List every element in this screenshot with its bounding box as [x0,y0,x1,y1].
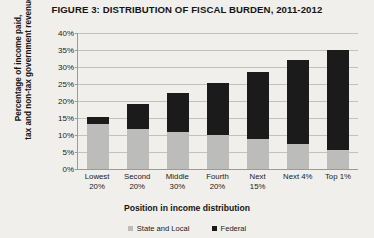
x-axis-tick-label-line: Fourth [197,172,237,182]
x-axis-tick-label: Fourth20% [197,172,237,191]
x-axis-tick-label-line: 30% [157,182,197,192]
x-axis-tick-label-line: 20% [117,182,157,192]
plot-area: 0%5%10%15%20%25%30%35%40% [77,33,358,170]
bar-group [278,33,318,169]
stacked-bar[interactable] [327,50,349,169]
bar-group [198,33,238,169]
bar-segment-state-and-local[interactable] [87,124,109,169]
bar-group [78,33,118,169]
x-axis-tick-label-line: 15% [238,182,278,192]
legend-swatch-icon [212,226,217,231]
legend-item[interactable]: State and Local [128,224,190,233]
x-axis-tick-label-line: Next 4% [278,172,318,182]
legend-swatch-icon [128,226,133,231]
x-axis-tick-label: Lowest20% [77,172,117,191]
bar-series-layer [78,33,358,169]
stacked-bar[interactable] [87,117,109,169]
stacked-bar[interactable] [247,72,269,169]
bar-segment-state-and-local[interactable] [247,139,269,169]
x-axis-tick-label: Second20% [117,172,157,191]
bar-segment-state-and-local[interactable] [287,144,309,169]
y-axis-tick-mark [75,169,78,170]
x-axis-tick-label: Next 4% [278,172,318,191]
x-axis-tick-label-line: Middle [157,172,197,182]
bar-segment-state-and-local[interactable] [167,132,189,169]
bar-group [118,33,158,169]
bar-group [238,33,278,169]
stacked-bar[interactable] [207,83,229,169]
chart-legend: State and LocalFederal [0,224,374,233]
stacked-bar[interactable] [167,93,189,169]
stacked-bar[interactable] [127,104,149,169]
y-axis-tick-label: 25% [58,80,74,89]
y-axis-tick-label: 35% [58,46,74,55]
x-axis-tick-label-line: Next [238,172,278,182]
bar-segment-federal[interactable] [167,93,189,132]
bar-segment-federal[interactable] [207,83,229,136]
bar-segment-federal[interactable] [287,60,309,144]
y-axis-tick-label: 20% [58,97,74,106]
bar-segment-federal[interactable] [247,72,269,139]
y-axis-tick-label: 30% [58,63,74,72]
stacked-bar[interactable] [287,60,309,169]
y-axis-tick-label: 0% [62,165,74,174]
x-axis-tick-label-line: 20% [197,182,237,192]
y-axis-title-line1: Percentage of income paid, [14,0,25,140]
bar-segment-state-and-local[interactable] [327,150,349,169]
x-axis-tick-label-line: 20% [77,182,117,192]
legend-label: State and Local [137,224,190,233]
x-axis-tick-label: Top 1% [318,172,358,191]
bar-segment-federal[interactable] [87,117,109,124]
figure-container: FIGURE 3: DISTRIBUTION OF FISCAL BURDEN,… [0,0,374,238]
x-axis-title: Position in income distribution [0,203,374,213]
x-axis-tick-label-line: Top 1% [318,172,358,182]
y-axis-title-line2: tax and non-tax government revenue [24,0,35,140]
y-axis-tick-label: 15% [58,114,74,123]
bar-segment-federal[interactable] [127,104,149,129]
bar-segment-state-and-local[interactable] [127,129,149,169]
y-axis-tick-label: 40% [58,29,74,38]
bar-group [318,33,358,169]
x-axis-tick-label-line: Lowest [77,172,117,182]
bar-segment-federal[interactable] [327,50,349,150]
bar-group [158,33,198,169]
chart-title: FIGURE 3: DISTRIBUTION OF FISCAL BURDEN,… [0,4,374,15]
y-axis-title: Percentage of income paid, tax and non-t… [11,0,37,143]
x-axis-tick-label-line: Second [117,172,157,182]
x-axis-tick-label: Next15% [238,172,278,191]
y-axis-tick-label: 5% [62,148,74,157]
bar-segment-state-and-local[interactable] [207,135,229,169]
x-axis-tick-labels: Lowest20%Second20%Middle30%Fourth20%Next… [77,172,358,191]
y-axis-tick-label: 10% [58,131,74,140]
x-axis-tick-label: Middle30% [157,172,197,191]
legend-item[interactable]: Federal [212,224,247,233]
legend-label: Federal [221,224,247,233]
